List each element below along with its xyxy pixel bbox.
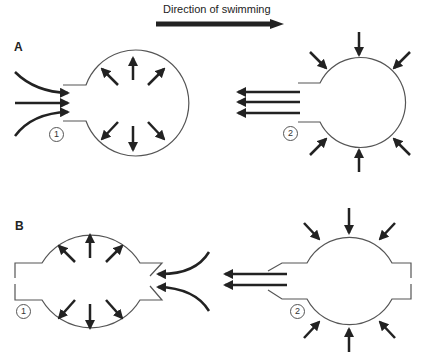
inflow-arrows-b1: [158, 252, 209, 311]
chamber-a1: [63, 50, 189, 156]
chamber-a2: [298, 57, 406, 147]
outflow-arrows-b2: [225, 274, 287, 285]
jet-propulsion-diagram: Direction of swimming A B 1 2 1 2: [0, 0, 428, 362]
outward-arrows-b1: [59, 235, 122, 328]
chamber-b1: [15, 235, 162, 328]
inward-arrows-b2: [304, 208, 395, 352]
inflow-arrows-a1: [15, 72, 68, 136]
chamber-b2: [268, 237, 411, 324]
diagram-drawing: [0, 0, 428, 362]
outward-arrows-a1: [102, 58, 164, 150]
direction-arrow-icon: [156, 19, 284, 29]
inward-arrows-a2: [310, 32, 410, 172]
outflow-arrows-a2: [238, 92, 300, 113]
